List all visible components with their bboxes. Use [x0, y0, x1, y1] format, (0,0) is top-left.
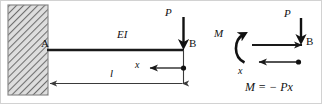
label-moment-m: M [214, 28, 223, 39]
moment-curved-arrow [236, 35, 245, 63]
fixed-support-wall [8, 5, 48, 95]
label-distance-x: x [135, 60, 139, 70]
figure-canvas: A EI P B x l M P B x M = − Px [0, 0, 322, 104]
label-load-p: P [165, 7, 172, 18]
label-section-load-p: P [284, 8, 291, 19]
label-flexural-rigidity-ei: EI [117, 29, 127, 40]
label-beam-length-l: l [110, 68, 113, 79]
label-section-distance-x: x [238, 66, 242, 76]
label-support-point-a: A [41, 38, 49, 49]
equation-moment: M = − Px [245, 81, 293, 93]
label-end-point-b: B [189, 38, 196, 49]
label-section-end-point-b: B [306, 36, 313, 47]
